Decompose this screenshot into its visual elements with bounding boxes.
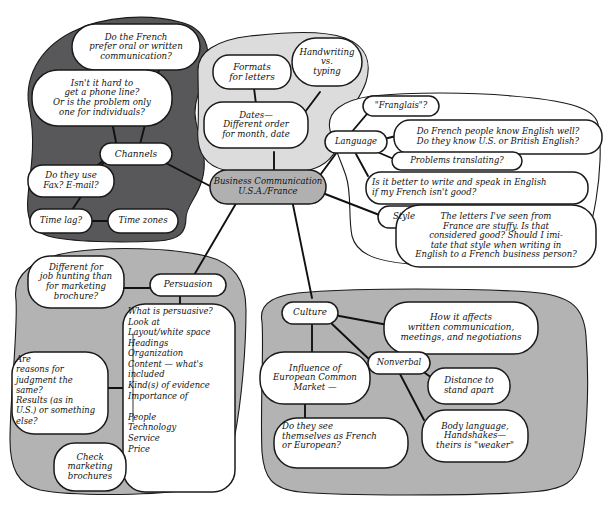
node-nonverbal-label[interactable]: Nonverbal [368, 352, 430, 374]
node-market-label[interactable]: Influence of European Common Market — [260, 352, 370, 404]
node-time-lag-label[interactable]: Time lag? [30, 209, 92, 233]
node-persuasion-label[interactable]: Persuasion [150, 274, 226, 296]
node-body-language-label[interactable]: Body language, Handshakes— theirs is "we… [422, 410, 528, 462]
node-formats-label[interactable]: Formats for letters [213, 55, 291, 89]
node-know-english-label[interactable]: Do French people know English well? Do t… [396, 120, 600, 154]
node-check-brochures-label[interactable]: Check marketing brochures [54, 443, 126, 491]
line-center-culture [292, 200, 312, 298]
node-phone-line-label[interactable]: Isn't it hard to get a phone line? Or is… [32, 70, 172, 126]
node-better-english-label[interactable]: Is it better to write and speak in Engli… [372, 172, 588, 204]
node-oral-written-label[interactable]: Do the French prefer oral or written com… [72, 24, 200, 70]
node-language-label[interactable]: Language [325, 131, 387, 153]
node-how-it-affects-label[interactable]: How it affects written communication, me… [384, 302, 538, 354]
node-job-hunting-label[interactable]: Different for job hunting than for marke… [28, 256, 124, 308]
node-channels-label[interactable]: Channels [100, 143, 172, 165]
mindmap-canvas: Business Communication U.S.A./France Cha… [0, 0, 607, 511]
node-stuffy-letters-label[interactable]: The letters I've seen from France are st… [398, 205, 594, 267]
node-time-zones-label[interactable]: Time zones [108, 209, 178, 233]
node-reasons-judgment-label[interactable]: Are reasons for judgment the same? Resul… [16, 354, 108, 432]
node-franglais-label[interactable]: "Franglais"? [363, 96, 439, 116]
node-problems-translating-label[interactable]: Problems translating? [392, 152, 522, 170]
node-center-label[interactable]: Business Communication U.S.A./France [210, 170, 326, 204]
node-french-or-european-label[interactable]: Do they see themselves as French or Euro… [282, 422, 404, 464]
node-handwriting-label[interactable]: Handwriting vs. typing [292, 38, 362, 86]
node-distance-label[interactable]: Distance to stand apart [428, 368, 510, 404]
node-fax-email-label[interactable]: Do they use Fax? E-mail? [28, 165, 114, 197]
node-what-is-persuasive-label[interactable]: What is persuasive? Look at Layout/white… [128, 306, 234, 490]
node-dates-label[interactable]: Dates— Different order for month, date [204, 102, 308, 148]
node-culture-label[interactable]: Culture [282, 302, 338, 324]
